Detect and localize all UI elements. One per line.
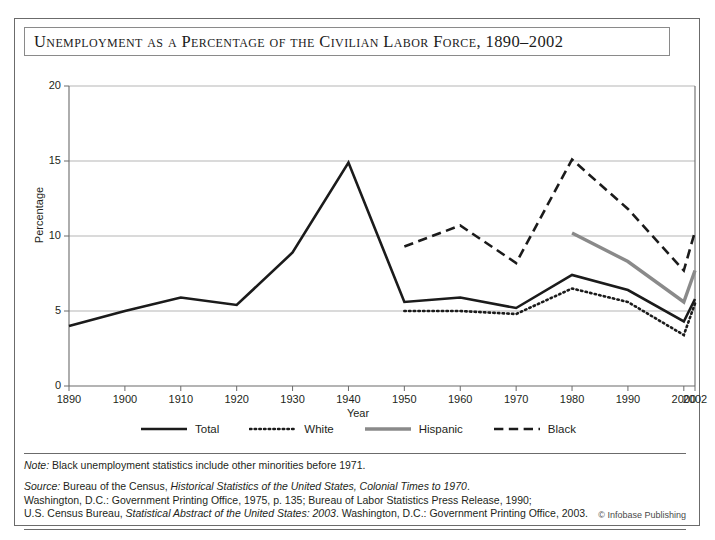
chart-legend: TotalWhiteHispanicBlack	[15, 423, 701, 435]
x-tick-label: 1940	[328, 394, 368, 405]
x-tick-label: 1950	[384, 394, 424, 405]
x-tick-label: 1890	[49, 394, 89, 405]
y-tick-label: 0	[35, 380, 61, 391]
legend-item-hispanic[interactable]: Hispanic	[364, 423, 463, 435]
legend-label-white: White	[304, 423, 333, 435]
series-line-total	[69, 163, 695, 327]
legend-item-black[interactable]: Black	[493, 423, 576, 435]
line-chart-svg	[15, 59, 701, 419]
chart-title-box: Unemployment as a Percentage of the Civi…	[24, 27, 670, 56]
legend-label-hispanic: Hispanic	[419, 423, 463, 435]
source-line-3-a: U.S. Census Bureau,	[24, 507, 126, 519]
source-line-1-italic: Historical Statistics of the United Stat…	[171, 480, 467, 492]
page-title: Unemployment as a Percentage of the Civi…	[34, 32, 563, 52]
source-line-1-a: Bureau of the Census,	[60, 480, 170, 492]
legend-label-black: Black	[548, 423, 576, 435]
x-axis-title: Year	[15, 407, 701, 419]
legend-item-white[interactable]: White	[249, 423, 333, 435]
series-line-black	[404, 160, 695, 271]
legend-item-total[interactable]: Total	[140, 423, 219, 435]
source-line-1-b: .	[467, 480, 470, 492]
note-body: Black unemployment statistics include ot…	[49, 459, 365, 471]
notes-block: Note: Black unemployment statistics incl…	[24, 459, 686, 521]
publisher-credit: © Infobase Publishing	[598, 510, 686, 520]
note-text: Note: Black unemployment statistics incl…	[24, 459, 686, 471]
source-line-1: Source: Bureau of the Census, Historical…	[24, 480, 686, 494]
credit-divider	[24, 529, 686, 530]
x-tick-label: 1900	[105, 394, 145, 405]
y-tick-label: 20	[35, 80, 61, 91]
plot-area: Percentage 05101520 18901900191019201930…	[15, 59, 701, 419]
x-tick-label: 2002	[675, 394, 715, 405]
source-line-2: Washington, D.C.: Government Printing Of…	[24, 494, 686, 508]
legend-swatch-total	[140, 423, 188, 435]
x-tick-label: 1920	[217, 394, 257, 405]
x-tick-label: 1970	[496, 394, 536, 405]
legend-swatch-hispanic	[364, 423, 412, 435]
figure-frame: Unemployment as a Percentage of the Civi…	[14, 18, 700, 526]
x-tick-label: 1910	[161, 394, 201, 405]
x-tick-label: 1980	[552, 394, 592, 405]
y-tick-label: 10	[35, 230, 61, 241]
y-tick-label: 15	[35, 155, 61, 166]
source-line-3: U.S. Census Bureau, Statistical Abstract…	[24, 507, 686, 521]
source-label: Source:	[24, 480, 60, 492]
legend-label-total: Total	[195, 423, 219, 435]
x-tick-label: 1990	[608, 394, 648, 405]
series-line-white	[404, 289, 695, 336]
y-tick-label: 5	[35, 305, 61, 316]
x-tick-label: 1960	[440, 394, 480, 405]
x-tick-label: 1930	[273, 394, 313, 405]
note-label: Note:	[24, 459, 49, 471]
y-axis-title: Percentage	[33, 145, 45, 285]
source-line-3-italic: Statistical Abstract of the United State…	[126, 507, 336, 519]
source-line-3-b: . Washington, D.C.: Government Printing …	[336, 507, 588, 519]
legend-swatch-white	[249, 423, 297, 435]
legend-swatch-black	[493, 423, 541, 435]
note-divider	[24, 453, 686, 454]
